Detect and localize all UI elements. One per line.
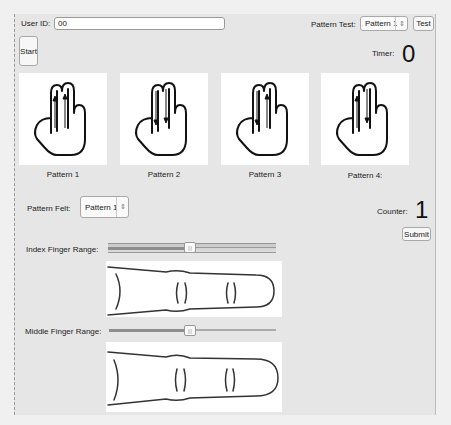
main-panel: User ID: 00 Pattern Test: Pattern 1 ⇕ Te… xyxy=(14,14,436,415)
pattern-test-select[interactable]: Pattern 1 ⇕ xyxy=(360,16,408,31)
test-button[interactable]: Test xyxy=(413,16,434,31)
index-finger-image xyxy=(106,261,282,317)
pattern-felt-selected: Pattern 1 xyxy=(85,203,117,212)
submit-button[interactable]: Submit xyxy=(402,227,431,241)
pattern-4-label: Pattern 4: xyxy=(321,171,409,180)
middle-finger-image xyxy=(106,342,282,412)
index-slider-thumb[interactable]: ||| xyxy=(184,242,196,253)
timer-label: Timer: xyxy=(372,49,394,58)
finger-icon xyxy=(106,342,282,412)
middle-slider-thumb[interactable]: ||| xyxy=(184,325,196,336)
finger-icon xyxy=(106,261,282,317)
middle-slider-rail xyxy=(189,329,276,331)
hand-icon xyxy=(321,73,409,165)
select-arrows-icon: ⇕ xyxy=(116,197,128,217)
pattern-4-image xyxy=(321,73,409,165)
middle-slider-fill xyxy=(109,329,189,332)
pattern-felt-select[interactable]: Pattern 1 ⇕ xyxy=(80,196,129,218)
counter-value: 1 xyxy=(415,198,428,222)
timer-value: 0 xyxy=(402,42,415,66)
hand-icon xyxy=(221,73,309,165)
pattern-felt-label: Pattern Felt: xyxy=(27,204,71,213)
user-id-label: User ID: xyxy=(21,19,50,28)
start-button[interactable]: Start xyxy=(19,36,38,66)
index-range-label: Index Finger Range: xyxy=(26,245,99,254)
counter-label: Counter: xyxy=(377,207,408,216)
pattern-2-image xyxy=(120,73,208,165)
hand-icon xyxy=(19,73,107,165)
pattern-3-label: Pattern 3 xyxy=(221,170,309,179)
pattern-2-label: Pattern 2 xyxy=(120,170,208,179)
index-slider-rail xyxy=(190,247,276,248)
middle-range-label: Middle Finger Range: xyxy=(25,327,101,336)
hand-icon xyxy=(120,73,208,165)
middle-range-slider[interactable]: ||| xyxy=(109,327,276,334)
pattern-1-label: Pattern 1 xyxy=(19,170,107,179)
index-range-slider[interactable]: ||| xyxy=(108,243,276,253)
select-arrows-icon: ⇕ xyxy=(395,17,407,30)
index-slider-fill xyxy=(108,247,190,250)
user-id-input[interactable]: 00 xyxy=(54,17,225,30)
pattern-test-label: Pattern Test: xyxy=(311,20,356,29)
pattern-1-image xyxy=(19,73,107,165)
pattern-3-image xyxy=(221,73,309,165)
pattern-test-selected: Pattern 1 xyxy=(365,19,397,28)
